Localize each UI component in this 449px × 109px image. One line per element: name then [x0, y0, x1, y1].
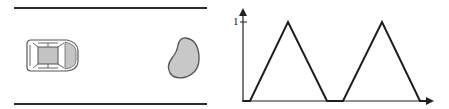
chart-axes: [240, 10, 432, 102]
figure-canvas: [0, 0, 449, 109]
blob-obstacle-icon: [168, 38, 199, 78]
car-top-view-icon: [27, 40, 78, 71]
membership-series-line: [243, 22, 428, 101]
y-tick-label-one: 1: [233, 16, 239, 27]
